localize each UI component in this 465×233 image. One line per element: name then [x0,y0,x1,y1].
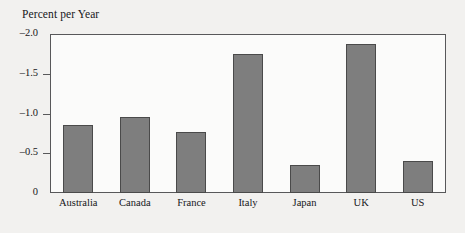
bar [176,132,206,193]
bar-chart: Percent per Year –2.0–1.5–1.0–0.50 Austr… [0,0,465,233]
x-axis-category-label: Japan [293,197,317,208]
x-axis-category-label: Canada [119,197,151,208]
chart-title: Percent per Year [22,8,99,20]
y-axis-tick-label: –2.0 [20,27,38,38]
y-axis-tick-mark [43,114,50,115]
y-axis-tick-label: –0.5 [20,146,38,157]
bar [346,44,376,193]
x-axis-category-label: France [177,197,206,208]
bar [120,117,150,193]
bar [233,54,263,193]
y-axis-tick-label: –1.0 [20,107,38,118]
x-axis-category-label: Italy [238,197,257,208]
y-axis-tick-label: 0 [33,186,38,197]
y-axis-tick-mark [43,153,50,154]
bar [63,125,93,193]
x-axis-category-label: UK [354,197,369,208]
y-axis-tick-label: –1.5 [20,67,38,78]
bar [403,161,433,193]
x-axis-category-label: US [411,197,424,208]
bar [290,165,320,193]
x-axis-category-label: Australia [59,197,98,208]
y-axis-tick-mark [43,74,50,75]
